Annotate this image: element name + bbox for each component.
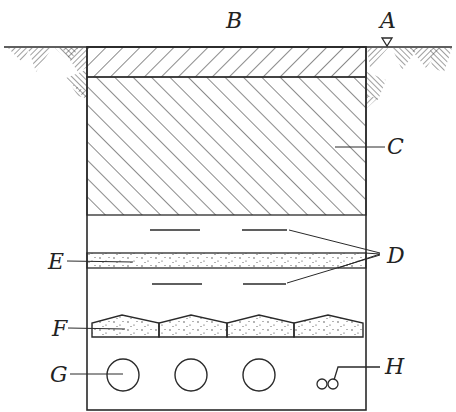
label-f: F: [51, 316, 68, 341]
pipes-g: [107, 359, 275, 391]
small-cables-h: [317, 367, 380, 389]
surface-layer: [87, 47, 366, 77]
label-d: D: [386, 243, 405, 268]
label-b: B: [225, 8, 242, 33]
sand-layer-e: [87, 253, 366, 268]
trench-cross-section-diagram: B A C D E F G H: [0, 0, 456, 412]
cover-slabs-f: [92, 315, 363, 337]
label-a: A: [378, 8, 396, 33]
backfill-layer-c: [87, 77, 366, 215]
label-g: G: [50, 362, 68, 387]
label-h: H: [384, 354, 405, 379]
label-c: C: [387, 134, 404, 159]
ground-level-marker-icon: [382, 38, 392, 46]
label-e: E: [47, 249, 64, 274]
